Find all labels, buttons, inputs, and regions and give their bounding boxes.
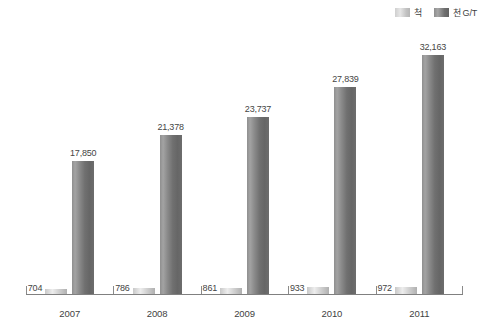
bar-label-cheon-gt-2010: 27,839 <box>332 74 358 84</box>
bar-cheon-gt-2010[interactable]: 27,839 <box>334 87 356 294</box>
x-axis-tick-0 <box>26 286 27 294</box>
bar-cheon-gt-2008[interactable]: 21,378 <box>160 135 182 294</box>
bar-label-cheon-gt-2008: 21,378 <box>157 122 183 132</box>
bar-label-cheok-2010: 933 <box>290 283 304 293</box>
bar-cheon-gt-2007[interactable]: 17,850 <box>72 161 94 294</box>
x-axis-label-2011: 2011 <box>376 308 463 319</box>
x-axis-labels: 2007 2008 2009 2010 2011 <box>26 308 463 319</box>
bar-cheon-gt-2009[interactable]: 23,737 <box>247 117 269 294</box>
x-axis-line <box>26 294 463 295</box>
x-axis-tick-5 <box>462 286 463 294</box>
legend-swatch-dark-icon <box>434 8 449 17</box>
x-axis-label-2007: 2007 <box>26 308 113 319</box>
bar-wrap-cheok-2007: 704 <box>45 26 67 294</box>
plot-area: 704 17,850 786 <box>0 26 485 295</box>
legend-swatch-light-icon <box>395 8 410 17</box>
bar-wrap-cheon-gt-2009: 23,737 <box>247 26 269 294</box>
bar-group-2008: 786 21,378 <box>113 26 200 294</box>
bar-label-cheon-gt-2007: 17,850 <box>70 148 96 158</box>
x-axis-tick-1 <box>113 286 114 294</box>
bar-wrap-cheok-2009: 861 <box>220 26 242 294</box>
bar-wrap-cheok-2008: 786 <box>133 26 155 294</box>
bar-label-cheon-gt-2011: 32,163 <box>420 42 446 52</box>
bar-chart: 척 천 G/T 704 17,850 <box>0 0 485 333</box>
x-axis-label-2009: 2009 <box>201 308 288 319</box>
bar-group-2007: 704 17,850 <box>26 26 113 294</box>
bar-groups: 704 17,850 786 <box>26 26 463 294</box>
bar-label-cheok-2008: 786 <box>115 283 129 293</box>
bar-label-cheok-2009: 861 <box>203 283 217 293</box>
x-axis-tick-2 <box>201 286 202 294</box>
x-axis-label-2010: 2010 <box>288 308 375 319</box>
legend-label-cheon-gt: 천 G/T <box>453 6 478 19</box>
bar-cheok-2010[interactable]: 933 <box>307 287 329 294</box>
bar-cheon-gt-2011[interactable]: 32,163 <box>422 55 444 294</box>
bar-label-cheon-gt-2009: 23,737 <box>245 104 271 114</box>
legend-item-cheok: 척 <box>395 6 422 19</box>
bar-wrap-cheon-gt-2007: 17,850 <box>72 26 94 294</box>
x-axis-label-2008: 2008 <box>113 308 200 319</box>
bar-group-2011: 972 32,163 <box>376 26 463 294</box>
bar-label-cheok-2007: 704 <box>28 283 42 293</box>
bar-wrap-cheon-gt-2008: 21,378 <box>160 26 182 294</box>
legend-label-cheok: 척 <box>414 6 422 19</box>
bar-wrap-cheon-gt-2010: 27,839 <box>334 26 356 294</box>
bar-label-cheok-2011: 972 <box>377 283 391 293</box>
x-axis-tick-4 <box>376 286 377 294</box>
bar-wrap-cheon-gt-2011: 32,163 <box>422 26 444 294</box>
bar-group-2009: 861 23,737 <box>201 26 288 294</box>
x-axis-tick-3 <box>288 286 289 294</box>
bar-group-2010: 933 27,839 <box>288 26 375 294</box>
bar-cheok-2011[interactable]: 972 <box>395 287 417 294</box>
chart-legend: 척 천 G/T <box>395 6 477 19</box>
legend-item-cheon-gt: 천 G/T <box>434 6 478 19</box>
bar-wrap-cheok-2011: 972 <box>395 26 417 294</box>
bar-wrap-cheok-2010: 933 <box>307 26 329 294</box>
